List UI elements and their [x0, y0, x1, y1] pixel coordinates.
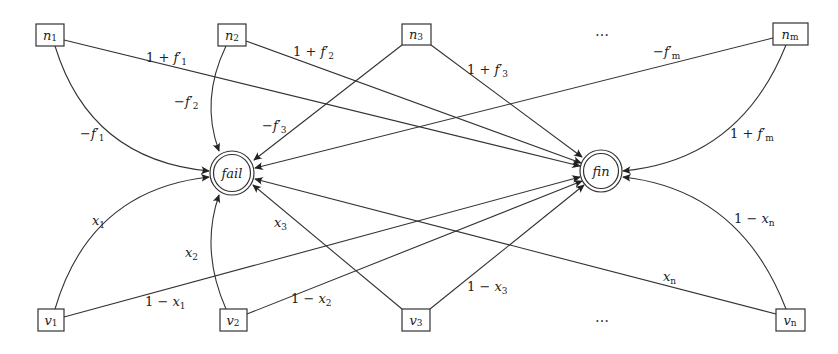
state-fail-label: fail: [221, 166, 243, 181]
label-n2-fin: 1 + f′2: [293, 44, 334, 61]
label-n1-fail: −f′1: [80, 126, 104, 143]
edge-n3-fail: [254, 45, 402, 160]
label-n1-fin: 1 + f′1: [146, 50, 187, 67]
label-v2-fail: x2: [185, 245, 198, 262]
edge-labels: 1 + f′1 −f′1 1 + f′2 −f′2 1 + f′3 −f′3 −…: [80, 44, 775, 311]
edge-vn-fin: [623, 177, 786, 309]
node-nm: nm: [773, 23, 808, 45]
edges: [55, 38, 786, 317]
label-v2-fin: 1 − x2: [291, 291, 332, 308]
node-v3: v3: [402, 309, 430, 331]
edge-v3-fail: [253, 185, 402, 309]
transition-diagram: 1 + f′1 −f′1 1 + f′2 −f′2 1 + f′3 −f′3 −…: [0, 0, 838, 354]
node-n3: n3: [402, 24, 431, 45]
state-fin-label: fin: [591, 164, 609, 179]
label-nm-fail: −f′m: [653, 44, 681, 61]
edge-vn-fail: [255, 179, 776, 314]
node-n1: n1: [36, 24, 64, 46]
state-fin: fin: [580, 150, 622, 192]
edge-v2-fail: [211, 195, 226, 309]
ellipsis-top: …: [595, 23, 609, 39]
bottom-nodes: v1 v2 v3 vn …: [38, 309, 805, 331]
edge-n2-fin: [246, 41, 581, 163]
label-vn-fail: xn: [663, 269, 676, 286]
label-n3-fin: 1 + f′3: [467, 62, 508, 79]
node-v2: v2: [220, 309, 247, 331]
node-vn: vn: [776, 309, 805, 331]
label-n3-fail: −f′3: [262, 118, 287, 135]
top-nodes: n1 n2 n3 nm …: [36, 23, 808, 46]
label-v3-fail: x3: [274, 215, 287, 232]
label-vn-fin: 1 − xn: [734, 211, 775, 228]
label-v1-fail: x1: [92, 213, 105, 230]
edge-n3-fin: [431, 45, 582, 157]
edge-n2-fail: [211, 46, 226, 151]
edge-v1-fail: [55, 177, 209, 309]
ellipsis-bottom: …: [595, 309, 609, 325]
node-v1: v1: [38, 309, 64, 331]
label-v1-fin: 1 − x1: [145, 294, 186, 311]
label-nm-fin: 1 + f′m: [730, 126, 774, 143]
label-v3-fin: 1 − x3: [467, 279, 508, 296]
node-n2: n2: [218, 24, 246, 46]
state-fail: fail: [210, 151, 254, 195]
edge-nm-fin: [623, 45, 786, 171]
label-n2-fail: −f′2: [174, 94, 198, 111]
